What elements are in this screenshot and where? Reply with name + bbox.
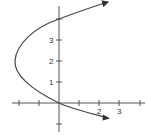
arrow-bottom-icon <box>103 115 111 121</box>
y-tick-label-3: 3 <box>49 36 54 45</box>
parabola-chart: 2 3 1 2 3 <box>0 0 148 135</box>
y-tick-label-1: 1 <box>49 78 54 87</box>
y-tick-label-2: 2 <box>49 57 54 66</box>
x-tick-label-3: 3 <box>117 107 122 116</box>
